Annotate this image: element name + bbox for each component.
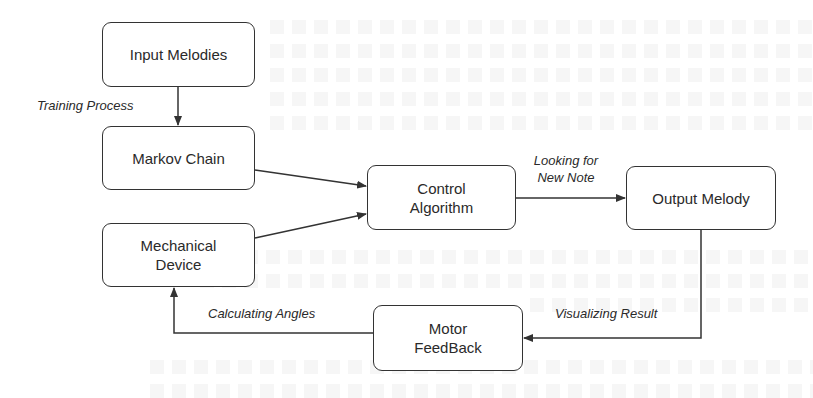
node-motor-feedback: Motor FeedBack xyxy=(373,305,523,371)
node-markov-chain: Markov Chain xyxy=(102,126,255,190)
node-label: Algorithm xyxy=(410,198,473,217)
node-label: Device xyxy=(156,255,202,274)
node-label: Control xyxy=(417,179,465,198)
edge-mechanical-to-control xyxy=(255,214,366,238)
node-label: Motor xyxy=(429,319,467,338)
edge-label-text: Training Process xyxy=(37,98,134,113)
edge-label-text: Calculating Angles xyxy=(208,306,315,321)
node-mechanical-device: Mechanical Device xyxy=(102,223,255,287)
node-control-algorithm: Control Algorithm xyxy=(367,165,516,230)
edge-label-training-process: Training Process xyxy=(37,97,134,114)
node-label: FeedBack xyxy=(414,338,482,357)
edge-label-text: Looking for xyxy=(521,152,611,169)
edge-label-text: Visualizing Result xyxy=(555,306,657,321)
edge-label-looking-for-new-note: Looking for New Note xyxy=(521,152,611,186)
edge-label-visualizing-result: Visualizing Result xyxy=(555,305,657,322)
node-label: Markov Chain xyxy=(132,149,225,168)
edge-markov-to-control xyxy=(255,170,366,186)
node-label: Output Melody xyxy=(652,189,750,208)
edge-label-text: New Note xyxy=(521,169,611,186)
node-label: Mechanical xyxy=(141,236,217,255)
node-input-melodies: Input Melodies xyxy=(102,22,255,87)
node-label: Input Melodies xyxy=(130,45,228,64)
edge-label-calculating-angles: Calculating Angles xyxy=(208,305,315,322)
node-output-melody: Output Melody xyxy=(626,166,776,230)
